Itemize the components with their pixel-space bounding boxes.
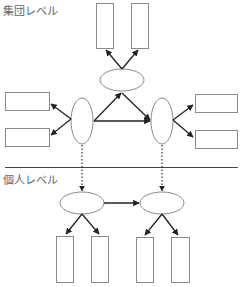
left-rect-2 [6, 129, 50, 147]
arrow-top-ellipse-to-top-rect-1 [106, 50, 122, 69]
bottom-rect-3 [137, 238, 154, 283]
right-ellipse [151, 98, 173, 144]
bottom-rect-1 [57, 237, 74, 283]
top-ellipse [100, 69, 144, 91]
right-rect-1 [196, 95, 238, 113]
bottom-rect-2 [92, 237, 109, 283]
arrow-right-ellipse-to-right-rect-1 [173, 105, 193, 120]
left-rect-1 [6, 93, 50, 111]
right-rect-2 [196, 131, 238, 149]
arrow-bottom-left-to-rect-1 [66, 214, 82, 234]
bottom-rect-4 [172, 238, 190, 283]
arrow-bottom-right-to-rect-4 [162, 214, 178, 235]
arrow-left-ellipse-to-left-rect-1 [51, 104, 71, 119]
bottom-left-ellipse [60, 192, 104, 214]
bottom-right-ellipse [140, 192, 184, 214]
arrow-bottom-left-to-rect-2 [82, 214, 99, 234]
arrow-bottom-right-to-rect-3 [145, 214, 162, 235]
arrow-left-ellipse-to-top-ellipse [94, 93, 121, 121]
left-ellipse [71, 98, 93, 144]
diagram-canvas [0, 0, 241, 287]
top-rect-2 [132, 4, 149, 49]
arrow-left-ellipse-to-left-rect-2 [51, 119, 71, 135]
arrow-right-ellipse-to-right-rect-2 [173, 120, 193, 137]
arrow-top-ellipse-to-right-ellipse [122, 93, 150, 120]
top-rect-1 [97, 4, 114, 49]
arrow-top-ellipse-to-top-rect-2 [122, 50, 138, 69]
